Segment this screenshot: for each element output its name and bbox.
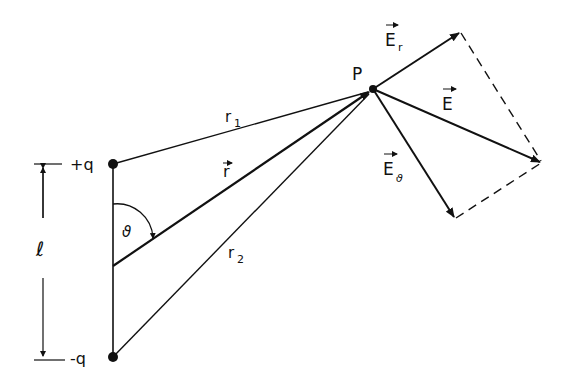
angle-label: ϑ — [122, 223, 131, 241]
dashed-guide-lower — [456, 163, 541, 218]
negative-charge-dot — [108, 352, 118, 362]
e-r-label: E r — [385, 25, 403, 54]
r1-label: r 1 — [225, 108, 241, 130]
dipole-diagram: +q -q ℓ ϑ P r 1 r r 2 E r E E ϑ — [0, 0, 569, 388]
separation-dimension — [34, 164, 65, 360]
svg-text:r: r — [228, 244, 235, 262]
e-label: E — [442, 89, 456, 114]
r-vector-label: r — [223, 162, 232, 181]
svg-text:r: r — [223, 162, 230, 181]
positive-charge-label: +q — [70, 155, 94, 174]
positive-charge-dot — [108, 159, 118, 169]
point-p-label: P — [352, 64, 362, 84]
e-theta-label: E ϑ — [383, 154, 403, 185]
e-vector — [373, 89, 540, 162]
angle-arc — [113, 204, 153, 238]
separation-label: ℓ — [35, 237, 44, 261]
dashed-guide-upper — [461, 33, 541, 161]
svg-text:E: E — [383, 159, 394, 179]
r2-line — [113, 94, 369, 357]
svg-text:E: E — [442, 94, 453, 114]
svg-text:r: r — [225, 108, 232, 126]
svg-text:2: 2 — [237, 253, 244, 266]
r2-label: r 2 — [228, 244, 244, 266]
r-vector — [113, 92, 369, 266]
svg-text:E: E — [385, 30, 396, 50]
svg-text:1: 1 — [234, 117, 241, 130]
svg-text:r: r — [398, 41, 403, 54]
negative-charge-label: -q — [70, 349, 86, 368]
svg-text:ϑ: ϑ — [396, 172, 403, 185]
